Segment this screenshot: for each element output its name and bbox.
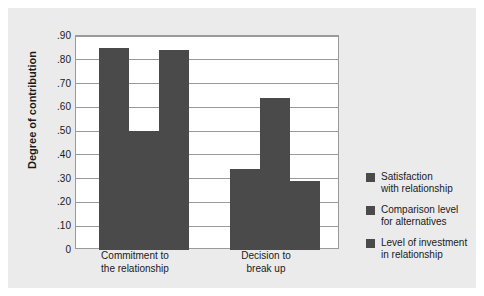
y-axis-tick-label: .10 <box>57 220 71 231</box>
legend-item: Satisfaction with relationship <box>366 171 484 195</box>
legend: Satisfaction with relationshipComparison… <box>366 171 484 270</box>
gridline <box>76 36 338 37</box>
y-axis-tick-label: .20 <box>57 196 71 207</box>
plot-area <box>75 35 339 249</box>
legend-swatch-icon <box>366 206 375 215</box>
y-axis-tick-label: .40 <box>57 148 71 159</box>
legend-label: Satisfaction with relationship <box>381 171 453 195</box>
bar <box>159 50 189 250</box>
bar <box>260 98 290 250</box>
y-axis-title: Degree of contribution <box>26 20 38 200</box>
x-axis-category-label: Decision to break up <box>206 249 326 275</box>
bar <box>230 169 260 250</box>
legend-item: Comparison level for alternatives <box>366 204 484 228</box>
legend-swatch-icon <box>366 173 375 182</box>
y-axis-tick-label: .50 <box>57 125 71 136</box>
y-axis-tick-label: .60 <box>57 101 71 112</box>
legend-label: Comparison level for alternatives <box>381 204 458 228</box>
bar <box>99 48 129 250</box>
bar <box>290 181 320 250</box>
y-axis-tick-label: .70 <box>57 77 71 88</box>
legend-label: Level of investment in relationship <box>381 237 467 261</box>
y-axis-tick-label: .90 <box>57 30 71 41</box>
y-axis-tick-label: 0 <box>65 244 71 255</box>
y-axis-ticks: .90.80.70.60.50.40.30.20.100 <box>38 35 71 249</box>
legend-swatch-icon <box>366 239 375 248</box>
bar <box>129 131 159 250</box>
figure-panel: Degree of contribution .90.80.70.60.50.4… <box>8 8 476 288</box>
legend-item: Level of investment in relationship <box>366 237 484 261</box>
y-axis-tick-label: .80 <box>57 53 71 64</box>
x-axis-category-label: Commitment to the relationship <box>75 249 195 275</box>
chart-figure: Degree of contribution .90.80.70.60.50.4… <box>0 0 484 296</box>
y-axis-tick-label: .30 <box>57 172 71 183</box>
